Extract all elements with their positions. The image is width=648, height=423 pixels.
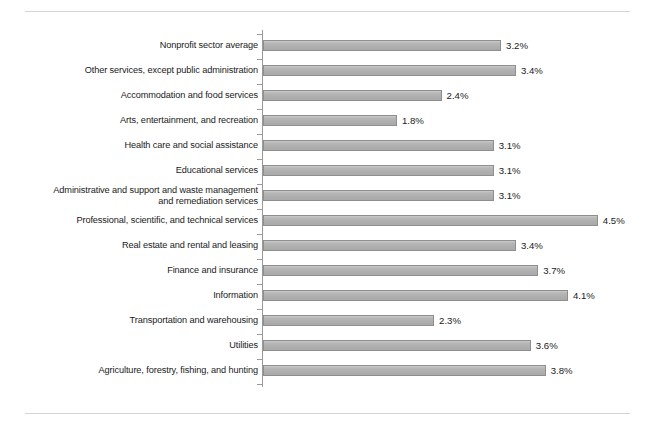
bar-row: Accommodation and food services2.4%	[0, 83, 648, 108]
bar-row: Finance and insurance3.7%	[0, 258, 648, 283]
bar	[263, 140, 494, 151]
bar-value-label: 3.1%	[499, 158, 521, 183]
axis-tick	[257, 159, 262, 160]
bar-value-label: 3.4%	[521, 233, 543, 258]
bar	[263, 290, 568, 301]
category-label: Utilities	[8, 333, 258, 358]
bar-row: Health care and social assistance3.1%	[0, 133, 648, 158]
plot-area: Nonprofit sector average3.2%Other servic…	[0, 30, 648, 390]
axis-tick	[257, 309, 262, 310]
bar-row: Nonprofit sector average3.2%	[0, 33, 648, 58]
bottom-divider-rule	[25, 413, 630, 414]
category-label: Professional, scientific, and technical …	[8, 208, 258, 233]
bar-row: Agriculture, forestry, fishing, and hunt…	[0, 358, 648, 383]
axis-tick	[257, 34, 262, 35]
bar-value-label: 3.2%	[506, 33, 528, 58]
axis-tick	[257, 134, 262, 135]
bar	[263, 215, 598, 226]
bar-row: Administrative and support and waste man…	[0, 183, 648, 208]
bar	[263, 165, 494, 176]
axis-tick	[257, 334, 262, 335]
category-label: Accommodation and food services	[8, 83, 258, 108]
axis-tick	[257, 359, 262, 360]
axis-tick	[257, 59, 262, 60]
top-divider-rule	[25, 11, 630, 12]
axis-tick	[257, 259, 262, 260]
bar	[263, 240, 516, 251]
bar-value-label: 3.6%	[536, 333, 558, 358]
bar	[263, 40, 501, 51]
clipped-header-text	[30, 0, 330, 3]
bar-row: Utilities3.6%	[0, 333, 648, 358]
bar-row: Arts, entertainment, and recreation1.8%	[0, 108, 648, 133]
bar	[263, 365, 546, 376]
category-label: Information	[8, 283, 258, 308]
category-label: Agriculture, forestry, fishing, and hunt…	[8, 358, 258, 383]
bar	[263, 315, 434, 326]
bar-value-label: 3.8%	[551, 358, 573, 383]
bar	[263, 115, 397, 126]
bar	[263, 265, 538, 276]
bar-value-label: 2.3%	[439, 308, 461, 333]
bar	[263, 190, 494, 201]
bar	[263, 65, 516, 76]
bar	[263, 90, 442, 101]
bar-value-label: 4.1%	[573, 283, 595, 308]
bar-row: Real estate and rental and leasing3.4%	[0, 233, 648, 258]
bar-value-label: 3.1%	[499, 183, 521, 208]
bar-row: Educational services3.1%	[0, 158, 648, 183]
bar-row: Professional, scientific, and technical …	[0, 208, 648, 233]
category-label: Real estate and rental and leasing	[8, 233, 258, 258]
category-label: Transportation and warehousing	[8, 308, 258, 333]
bar-value-label: 1.8%	[402, 108, 424, 133]
chart-figure: Nonprofit sector average3.2%Other servic…	[0, 0, 648, 423]
bar-value-label: 3.4%	[521, 58, 543, 83]
category-label: Administrative and support and waste man…	[8, 183, 258, 208]
category-label: Finance and insurance	[8, 258, 258, 283]
bar-row: Other services, except public administra…	[0, 58, 648, 83]
bar	[263, 340, 531, 351]
bar-value-label: 4.5%	[603, 208, 625, 233]
bar-value-label: 2.4%	[447, 83, 469, 108]
bar-value-label: 3.7%	[543, 258, 565, 283]
category-label: Other services, except public administra…	[8, 58, 258, 83]
category-label: Educational services	[8, 158, 258, 183]
axis-tick	[257, 284, 262, 285]
axis-tick	[257, 84, 262, 85]
axis-tick	[257, 384, 262, 385]
bar-row: Information4.1%	[0, 283, 648, 308]
category-label: Health care and social assistance	[8, 133, 258, 158]
category-label: Nonprofit sector average	[8, 33, 258, 58]
axis-tick	[257, 184, 262, 185]
axis-tick	[257, 209, 262, 210]
axis-tick	[257, 234, 262, 235]
axis-tick	[257, 109, 262, 110]
category-label: Arts, entertainment, and recreation	[8, 108, 258, 133]
bar-row: Transportation and warehousing2.3%	[0, 308, 648, 333]
bar-value-label: 3.1%	[499, 133, 521, 158]
